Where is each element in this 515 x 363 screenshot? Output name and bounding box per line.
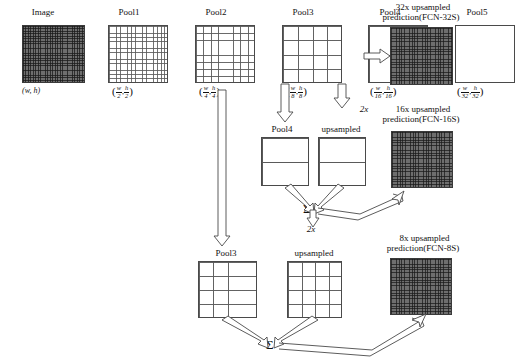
arrow-pool5-to-prediction32s	[364, 49, 390, 63]
arrow-pool4row2-to-sum	[285, 184, 314, 214]
arrow-pool4-down	[277, 84, 293, 122]
arrow-sum-row3-to-prediction8s	[279, 316, 424, 356]
arrow-pool3-long-down	[214, 90, 230, 246]
arrow-pool5-downsample-2x	[334, 84, 350, 108]
arrow-pool3row3-to-sum	[222, 316, 268, 348]
pool5-den-h: 32	[471, 93, 480, 100]
